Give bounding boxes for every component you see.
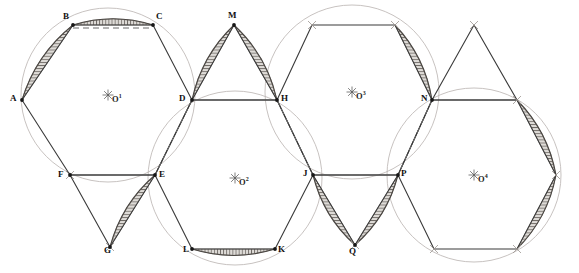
vertex-dot-h xyxy=(275,98,279,102)
polygon-tri_Q xyxy=(313,175,398,245)
center-label-base: O xyxy=(478,174,485,184)
vertex-label-b: B xyxy=(63,12,69,21)
vertex-label-f: F xyxy=(58,170,64,179)
chord-DE xyxy=(155,100,192,175)
polygon-tri_G xyxy=(70,175,155,247)
vertex-label-h: H xyxy=(281,94,288,103)
vertex-label-q: Q xyxy=(349,247,356,256)
geometry-svg xyxy=(0,0,579,273)
center-label-o4: O4 xyxy=(478,173,488,183)
center-label-o2: O2 xyxy=(239,176,249,186)
vertex-label-j: J xyxy=(303,169,308,178)
vertex-label-a: A xyxy=(10,94,17,103)
center-label-index: 4 xyxy=(485,173,488,179)
center-label-index: 1 xyxy=(119,93,122,99)
vertex-dot-n xyxy=(430,98,434,102)
vertex-dot-b xyxy=(71,23,75,27)
vertex-dot-a xyxy=(20,98,24,102)
figure-canvas: ABCDEFGHJKLMNPQ O1O2O3O4 xyxy=(0,0,579,273)
center-label-o1: O1 xyxy=(112,93,122,103)
polygon-hex2 xyxy=(155,100,313,249)
vertex-dot-f xyxy=(68,173,72,177)
vertex-label-g: G xyxy=(104,246,111,255)
vertex-label-d: D xyxy=(179,94,186,103)
vertex-dot-e xyxy=(153,173,157,177)
vertex-label-p: P xyxy=(401,169,407,178)
vertex-label-e: E xyxy=(159,170,165,179)
vertex-dot-j xyxy=(311,173,315,177)
vertex-dot-k xyxy=(273,247,277,251)
hatched-lunes xyxy=(22,19,556,256)
chord-HJ xyxy=(277,100,313,175)
polygon-tri_R xyxy=(432,25,517,100)
vertex-label-m: M xyxy=(228,11,237,20)
vertex-dot-c xyxy=(151,23,155,27)
construction-circles xyxy=(21,5,561,265)
dashed-chords xyxy=(70,28,517,175)
center-label-base: O xyxy=(112,94,119,104)
tick-marks xyxy=(66,21,560,253)
polygon-tri_M xyxy=(192,25,277,100)
vertex-label-c: C xyxy=(156,12,163,21)
vertex-label-n: N xyxy=(421,94,428,103)
center-label-base: O xyxy=(356,91,363,101)
center-label-index: 2 xyxy=(246,176,249,182)
center-label-base: O xyxy=(239,177,246,187)
inscribed-polygons xyxy=(22,25,556,249)
center-label-o3: O3 xyxy=(356,90,366,100)
vertex-dot-m xyxy=(232,23,236,27)
center-label-index: 3 xyxy=(363,90,366,96)
vertex-dot-l xyxy=(190,247,194,251)
vertex-label-k: K xyxy=(278,245,285,254)
vertex-dot-p xyxy=(396,173,400,177)
vertex-label-l: L xyxy=(183,245,189,254)
vertex-dot-d xyxy=(190,98,194,102)
